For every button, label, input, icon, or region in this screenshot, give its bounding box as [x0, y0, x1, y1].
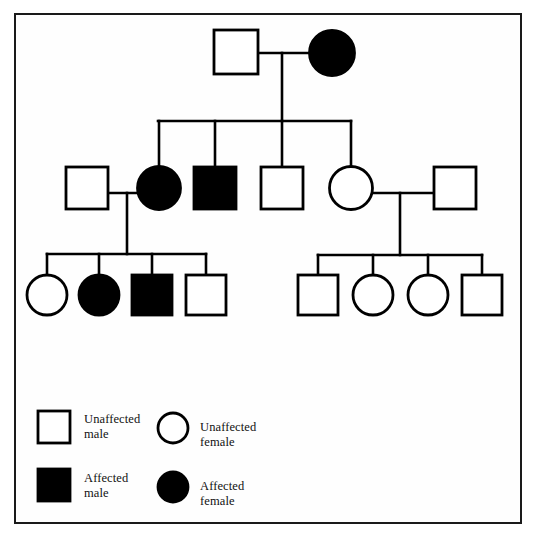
individual-III-6[interactable] — [353, 275, 393, 315]
individual-II-4[interactable] — [261, 167, 303, 209]
legend-label-unaffected-male: Unaffected male — [84, 412, 140, 441]
individual-III-4[interactable] — [186, 275, 226, 315]
individual-III-7[interactable] — [408, 275, 448, 315]
pedigree-figure: Unaffected male Unaffected female Affect… — [0, 0, 535, 538]
legend-unaffected-male-icon — [38, 411, 70, 443]
pedigree-stage: Unaffected male Unaffected female Affect… — [0, 0, 535, 538]
individual-II-6[interactable] — [434, 167, 476, 209]
connector-lines — [47, 53, 482, 275]
legend-label-unaffected-female: Unaffected female — [200, 420, 256, 449]
individual-II-5[interactable] — [330, 167, 373, 210]
legend-affected-female-icon — [158, 472, 188, 502]
individual-III-1[interactable] — [27, 275, 67, 315]
individual-II-1[interactable] — [66, 167, 108, 209]
legend-affected-male-icon — [38, 469, 70, 501]
individual-III-5[interactable] — [298, 275, 338, 315]
generation-3 — [27, 275, 502, 315]
individual-III-3[interactable] — [132, 275, 172, 315]
individual-II-2[interactable] — [138, 167, 181, 210]
pedigree-drawing — [0, 0, 535, 538]
individual-III-2[interactable] — [79, 275, 119, 315]
individual-I-2[interactable] — [310, 31, 355, 76]
legend-label-affected-female: Affected female — [200, 479, 244, 508]
individual-I-1[interactable] — [214, 30, 258, 74]
individual-III-8[interactable] — [462, 275, 502, 315]
individual-II-3[interactable] — [194, 167, 236, 209]
legend-unaffected-female-icon — [158, 413, 188, 443]
legend-label-affected-male: Affected male — [84, 471, 128, 500]
